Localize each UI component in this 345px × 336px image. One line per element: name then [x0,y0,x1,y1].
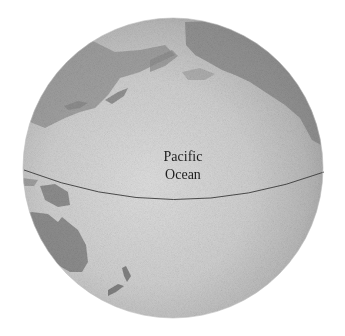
pacific-ocean-label: Pacific Ocean [143,148,223,184]
ocean-label-line2: Ocean [143,166,223,184]
globe-map: Pacific Ocean [0,0,345,336]
ocean-label-line1: Pacific [143,148,223,166]
